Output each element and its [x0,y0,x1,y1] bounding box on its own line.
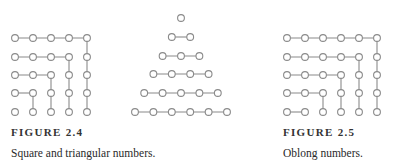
dot [12,54,19,61]
dot [132,109,139,116]
dot [30,72,37,79]
dot [320,54,327,61]
dot [374,72,381,79]
dot [84,54,91,61]
dot [187,71,194,78]
dot [205,109,212,116]
dot [84,35,91,42]
dot [356,35,363,42]
dot [168,71,175,78]
dot [356,54,363,61]
dot [356,109,363,116]
square-numbers-diagram [12,35,91,116]
dot [205,71,212,78]
oblong-numbers-diagram [284,35,381,116]
dot [374,35,381,42]
dot [150,109,157,116]
dot [178,53,185,60]
dot [374,109,381,116]
dot [12,90,19,97]
dot [48,72,55,79]
dot [30,90,37,97]
dot [374,54,381,61]
dot [168,34,175,41]
dot [320,72,327,79]
dot [338,54,345,61]
dot [302,54,309,61]
dot [84,72,91,79]
dot [187,34,194,41]
dot [284,109,291,116]
dot [12,35,19,42]
dot [168,109,175,116]
dot [66,54,73,61]
dot [159,53,166,60]
dot [48,90,55,97]
dot [66,72,73,79]
dot [320,109,327,116]
dot [284,54,291,61]
dot [302,90,309,97]
dot [48,54,55,61]
dot [284,35,291,42]
figure-2-5-caption: Oblong numbers. [283,147,363,159]
dot [30,54,37,61]
dot [302,72,309,79]
dot [338,72,345,79]
dot [284,90,291,97]
figure-diagrams [0,0,396,125]
dot [178,15,185,22]
dot [302,109,309,116]
dot [66,35,73,42]
dot [338,35,345,42]
dot [302,35,309,42]
dot [48,35,55,42]
dot [48,109,55,116]
dot [224,109,231,116]
dot [338,109,345,116]
dot [196,90,203,97]
triangular-numbers-diagram [132,15,231,116]
dot [187,109,194,116]
dot [338,90,345,97]
dot [66,109,73,116]
dot [12,72,19,79]
dot [356,90,363,97]
dot [356,72,363,79]
dot [320,35,327,42]
dot [150,71,157,78]
figure-2-5-label: FIGURE 2.5 [283,126,355,138]
dot [196,53,203,60]
dot [66,90,73,97]
dot [284,72,291,79]
dot [84,90,91,97]
dot [30,109,37,116]
dot [141,90,148,97]
dot [214,90,221,97]
figure-2-4-caption: Square and triangular numbers. [11,147,155,159]
dot [30,35,37,42]
dot [159,90,166,97]
dot [12,109,19,116]
figure-2-4-label: FIGURE 2.4 [11,126,83,138]
dot [84,109,91,116]
dot [320,90,327,97]
dot [374,90,381,97]
dot [178,90,185,97]
